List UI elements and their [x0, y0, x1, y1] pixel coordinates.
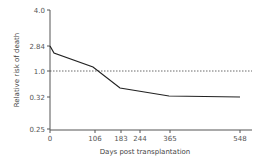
svg-text:106: 106	[88, 135, 102, 143]
svg-text:0: 0	[48, 135, 52, 143]
svg-text:4.0: 4.0	[34, 7, 45, 15]
svg-text:548: 548	[233, 135, 246, 143]
svg-text:244: 244	[133, 135, 147, 143]
svg-text:365: 365	[163, 135, 176, 143]
x-axis-label: Days post transplantation	[100, 148, 191, 156]
y-ticks: 4.0 2.84 1.0 0.32 0.25	[29, 7, 50, 134]
svg-text:2.84: 2.84	[29, 43, 45, 51]
svg-text:1.0: 1.0	[34, 68, 45, 76]
svg-text:0.25: 0.25	[29, 126, 45, 134]
chart: 4.0 2.84 1.0 0.32 0.25 0 106 183 244 365…	[0, 0, 259, 159]
svg-text:0.32: 0.32	[29, 94, 45, 102]
x-ticks: 0 106 183 244 365 548	[48, 130, 247, 143]
y-axis-label: Relative risk of death	[13, 33, 21, 107]
svg-text:183: 183	[114, 135, 127, 143]
risk-line	[50, 46, 240, 97]
